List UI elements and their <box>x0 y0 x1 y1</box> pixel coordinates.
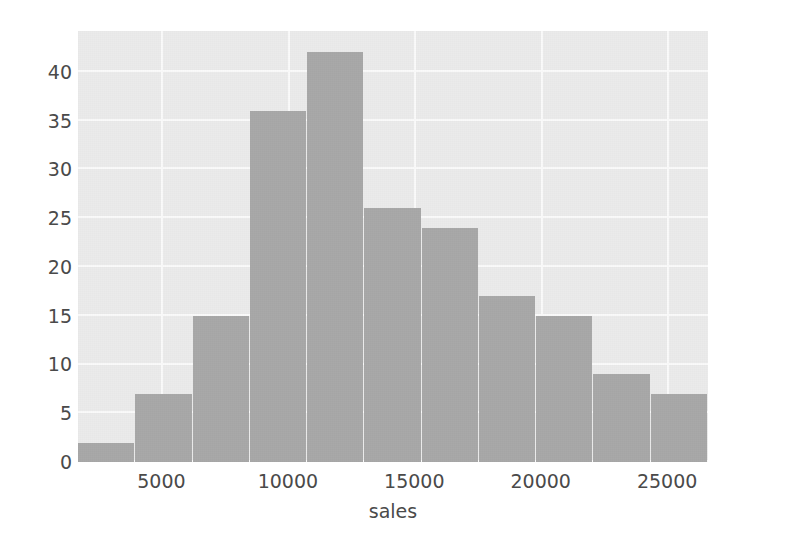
histogram-bar <box>135 394 191 462</box>
y-tick-label: 40 <box>48 63 72 82</box>
x-tick-label: 25000 <box>637 472 697 491</box>
x-tick-label: 15000 <box>384 472 444 491</box>
x-tick-label: 10000 <box>258 472 318 491</box>
histogram-bar <box>364 208 420 462</box>
gridline-y-35 <box>78 119 708 121</box>
gridline-y-30 <box>78 167 708 169</box>
histogram-bar <box>250 111 306 462</box>
histogram-bar <box>422 228 478 462</box>
histogram-bar <box>307 52 363 462</box>
gridline-y-40 <box>78 70 708 72</box>
histogram-bar <box>479 296 535 462</box>
y-tick-label: 10 <box>48 355 72 374</box>
histogram-bar <box>193 316 249 462</box>
plot-area <box>78 31 708 462</box>
x-axis-label: sales <box>0 500 786 522</box>
y-tick-label: 30 <box>48 160 72 179</box>
y-tick-label: 20 <box>48 258 72 277</box>
histogram-bar <box>78 443 134 463</box>
y-tick-label: 25 <box>48 209 72 228</box>
histogram-figure: 0510152025303540 50001000015000200002500… <box>0 0 786 558</box>
histogram-bar <box>593 374 649 462</box>
x-tick-label: 5000 <box>137 472 185 491</box>
histogram-bar <box>651 394 707 462</box>
y-tick-label: 0 <box>60 453 72 472</box>
histogram-bar <box>536 316 592 462</box>
y-tick-label: 5 <box>60 404 72 423</box>
x-tick-label: 20000 <box>510 472 570 491</box>
y-tick-label: 35 <box>48 112 72 131</box>
y-tick-label: 15 <box>48 307 72 326</box>
